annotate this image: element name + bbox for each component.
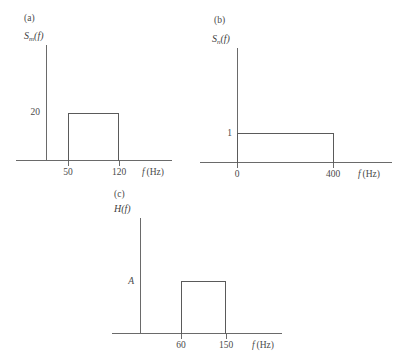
panel-a-x-tick-label-50: 50 xyxy=(54,168,82,178)
panel-a-y-axis xyxy=(46,45,47,161)
panel-c-x-tick-label-60: 60 xyxy=(167,341,195,351)
panel-b-tag: (b) xyxy=(214,16,225,26)
spectra-figure: (a) Sm(f) 20 50 120 f (Hz) (b) Sn(f) 1 0… xyxy=(0,0,404,364)
panel-c-x-axis-unit: (Hz) xyxy=(257,340,274,350)
panel-a-x-axis-var: f xyxy=(142,167,145,177)
panel-b-x-axis-var: f xyxy=(358,169,361,179)
panel-b-y-label-arg: (f) xyxy=(221,33,230,44)
panel-b-pulse-band xyxy=(237,133,334,163)
panel-c-y-tick-label: A xyxy=(112,277,134,287)
panel-a-tag: (a) xyxy=(24,14,35,24)
panel-c-x-tick-label-150: 150 xyxy=(212,341,240,351)
panel-c-x-tick-150 xyxy=(226,334,227,339)
panel-a-y-label-arg: (f) xyxy=(34,30,43,41)
panel-b-x-tick-label-0: 0 xyxy=(224,170,250,180)
panel-b-y-axis-label: Sn(f) xyxy=(212,34,230,44)
panel-a-pulse-band xyxy=(68,113,119,161)
panel-a-x-tick-label-120: 120 xyxy=(105,168,133,178)
panel-b-x-tick-label-400: 400 xyxy=(319,170,347,180)
panel-a-y-axis-label: Sm(f) xyxy=(24,31,44,41)
panel-c-y-label-arg: (f) xyxy=(121,203,130,214)
panel-b-x-axis-label: f (Hz) xyxy=(358,170,380,180)
panel-c-x-axis-var: f xyxy=(252,340,255,350)
panel-b-y-tick-label: 1 xyxy=(214,129,232,139)
panel-b-x-tick-0 xyxy=(237,163,238,168)
panel-c-tag: (c) xyxy=(114,190,125,200)
panel-a-x-axis-label: f (Hz) xyxy=(142,168,164,178)
panel-a-y-label-sub: m xyxy=(29,35,34,43)
panel-a-y-tick-label: 20 xyxy=(16,108,40,118)
panel-c-pulse-band xyxy=(181,281,226,334)
panel-a-x-axis-unit: (Hz) xyxy=(147,167,164,177)
panel-b-x-axis-unit: (Hz) xyxy=(363,169,380,179)
panel-b-x-tick-400 xyxy=(333,163,334,168)
panel-c-y-axis-label: H(f) xyxy=(114,204,131,214)
panel-a-x-tick-50 xyxy=(68,161,69,166)
panel-b-y-label-sub: n xyxy=(217,38,221,46)
panel-c-x-tick-60 xyxy=(181,334,182,339)
panel-c-y-axis xyxy=(140,218,141,334)
panel-c-x-axis-label: f (Hz) xyxy=(252,341,274,351)
panel-a-x-tick-120 xyxy=(119,161,120,166)
